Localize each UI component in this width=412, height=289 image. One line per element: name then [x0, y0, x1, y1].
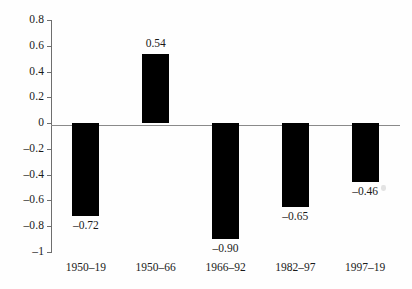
y-axis-tick — [47, 20, 52, 21]
y-axis-tick-label: 0.8 — [29, 14, 44, 26]
y-axis-tick-label: 0.6 — [29, 40, 44, 52]
bar-value-label: –0.46 — [325, 186, 405, 198]
y-axis-tick-label: 0.4 — [29, 66, 44, 78]
y-axis-tick-label: 0.2 — [29, 91, 44, 103]
bar-value-label: –0.65 — [255, 211, 335, 223]
category-label: 1997–19 — [320, 262, 410, 274]
bar-value-label: 0.54 — [116, 38, 196, 50]
bar — [142, 54, 169, 124]
y-axis-tick-label: –1 — [32, 246, 44, 258]
bar-value-label: –0.90 — [186, 243, 266, 255]
y-axis-tick — [47, 149, 52, 150]
y-axis-tick — [47, 97, 52, 98]
bar-chart: 0.80.60.40.20–0.2–0.4–0.6–0.8–1 –0.720.5… — [0, 0, 412, 289]
bar — [352, 123, 379, 182]
y-axis-tick — [47, 72, 52, 73]
y-axis-tick — [47, 46, 52, 47]
bar — [212, 123, 239, 239]
bar-value-label: –0.72 — [46, 220, 126, 232]
y-axis-tick-label: –0.2 — [23, 143, 44, 155]
y-axis-line — [51, 20, 52, 252]
y-axis-tick — [47, 252, 52, 253]
y-axis-tick-label: –0.6 — [23, 194, 44, 206]
scan-artifact-speck — [381, 185, 386, 191]
y-axis-tick — [47, 175, 52, 176]
bar — [282, 123, 309, 207]
y-axis-tick-label: 0 — [38, 117, 44, 129]
bar — [72, 123, 99, 216]
y-axis-tick-label: –0.4 — [23, 169, 44, 181]
y-axis-tick — [47, 123, 52, 124]
y-axis-tick — [47, 200, 52, 201]
y-axis-tick-label: –0.8 — [23, 220, 44, 232]
